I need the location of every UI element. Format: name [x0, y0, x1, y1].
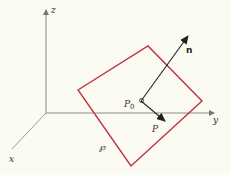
p0-label-subscript: 0	[130, 103, 134, 111]
x-axis	[12, 113, 46, 149]
z-axis-label: z	[50, 5, 56, 15]
plane-normal-diagram: z y x n P0 P ℘	[0, 0, 231, 175]
plane	[78, 46, 202, 166]
y-axis-label: y	[212, 115, 219, 125]
x-axis-label: x	[9, 154, 14, 164]
plane-label: ℘	[99, 142, 106, 152]
p0-label: P0	[123, 99, 135, 111]
normal-vector-label: n	[186, 45, 192, 55]
p-label: P	[151, 124, 159, 134]
axes	[12, 10, 214, 149]
p-vector	[141, 101, 165, 121]
